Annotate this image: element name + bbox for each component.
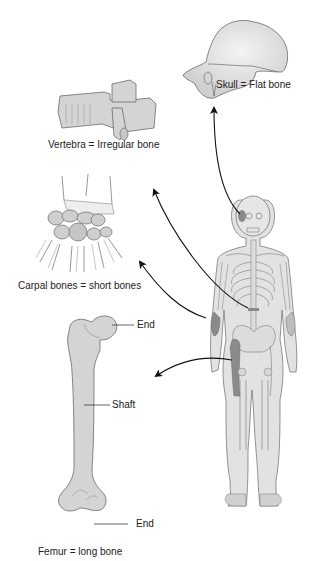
femur-end-top-label: End — [137, 319, 155, 331]
arrow-to-skull — [214, 108, 240, 214]
skull-label: Skull = Flat bone — [216, 79, 291, 91]
skeleton-illustration — [211, 196, 297, 506]
femur-end-bottom-label: End — [136, 518, 154, 530]
carpal-label: Carpal bones = short bones — [18, 280, 141, 292]
carpal-bones-illustration — [36, 174, 122, 272]
vertebra-label: Vertebra = Irregular bone — [48, 139, 159, 151]
arrow-to-femur — [156, 358, 232, 376]
femur-shaft-label: Shaft — [112, 399, 135, 411]
femur-bone-illustration — [59, 316, 134, 524]
arrow-to-carpal — [140, 262, 206, 318]
vertebra-bone-illustration — [58, 80, 156, 140]
bone-types-diagram: Skull = Flat bone Vertebra = Irregular b… — [0, 0, 334, 561]
femur-label: Femur = long bone — [38, 546, 122, 558]
